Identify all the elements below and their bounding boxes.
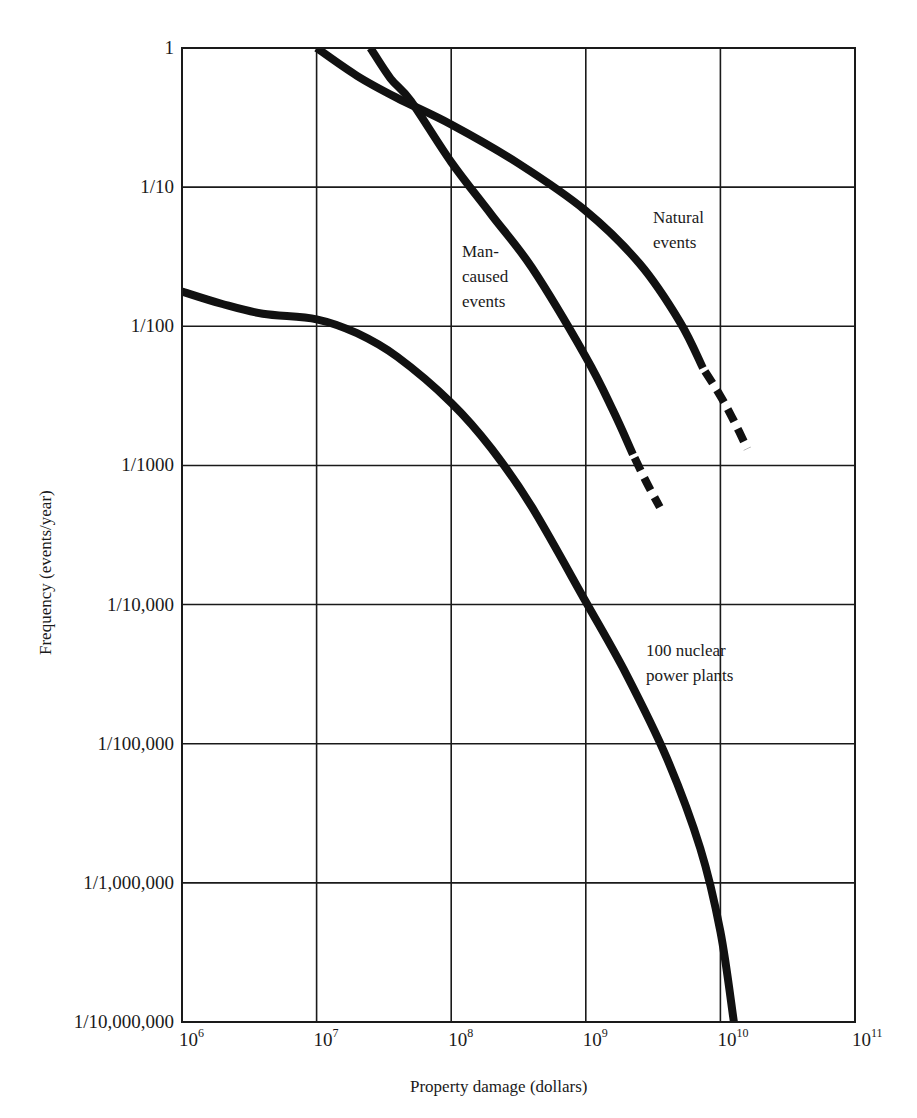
curve-natural-events-extrapolated — [703, 368, 747, 449]
x-tick-label: 106 — [179, 1030, 204, 1049]
x-tick-label: 1010 — [717, 1030, 748, 1049]
grid-lines — [182, 48, 855, 1022]
x-tick-label: 108 — [448, 1030, 473, 1049]
y-tick-label: 1 — [4, 38, 174, 57]
y-tick-label: 1/1,000,000 — [4, 873, 174, 892]
data-curves — [182, 48, 747, 1022]
y-tick-label: 1/10,000,000 — [4, 1012, 174, 1031]
y-tick-label: 1/10 — [4, 177, 174, 196]
x-axis-label: Property damage (dollars) — [410, 1077, 588, 1097]
y-axis-label: Frequency (events/year) — [36, 490, 56, 655]
x-tick-label: 109 — [583, 1030, 608, 1049]
annotation-man-caused-events: Man- caused events — [462, 239, 508, 314]
plot-frame — [182, 48, 855, 1022]
curve-natural-events — [317, 48, 703, 368]
x-tick-label: 107 — [314, 1030, 339, 1049]
plot-area — [0, 0, 917, 1118]
y-tick-label: 1/100,000 — [4, 734, 174, 753]
y-tick-label: 1/1000 — [4, 455, 174, 474]
y-tick-label: 1/10,000 — [4, 595, 174, 614]
y-tick-label: 1/100 — [4, 316, 174, 335]
x-tick-label: 1011 — [852, 1030, 883, 1049]
annotation-natural-events: Natural events — [653, 205, 704, 255]
annotation-nuclear-power-plants: 100 nuclear power plants — [646, 638, 733, 688]
curve-man-caused-events-extrapolated — [633, 454, 660, 507]
